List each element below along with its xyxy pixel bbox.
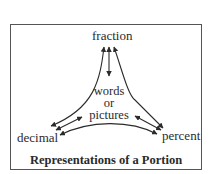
diagram-title: Representations of a Portion (10, 153, 202, 168)
center-line-3: pictures (84, 109, 134, 121)
arrow-decimal-percent (60, 124, 157, 135)
node-decimal: decimal (17, 131, 58, 144)
node-words-or-pictures: words or pictures (84, 85, 134, 121)
node-fraction: fraction (92, 29, 132, 42)
node-percent: percent (162, 129, 200, 142)
arrow-words-percent (135, 116, 161, 130)
